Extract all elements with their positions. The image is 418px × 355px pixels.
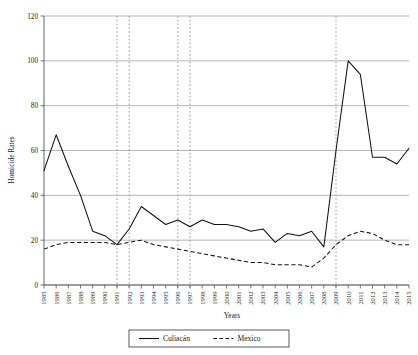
x-tick-label-1988: 1988: [77, 291, 84, 305]
data-series-group: [44, 61, 409, 267]
y-axis-tick-labels-group: 020406080100120: [27, 13, 38, 290]
x-tick-label-1987: 1987: [65, 291, 72, 305]
x-tick-label-2002: 2002: [247, 292, 254, 305]
x-tick-label-1992: 1992: [126, 292, 133, 305]
y-tick-label-60: 60: [31, 147, 39, 155]
x-tick-label-2014: 2014: [393, 291, 400, 305]
x-tick-label-1989: 1989: [89, 291, 96, 305]
x-tick-label-1998: 1998: [199, 291, 206, 305]
x-tick-label-1996: 1996: [174, 291, 181, 305]
x-tick-label-1999: 1999: [211, 291, 218, 305]
x-tick-label-2005: 2005: [284, 291, 291, 305]
series-line-mexico: [44, 231, 409, 267]
x-tick-label-2003: 2003: [259, 291, 266, 305]
x-tick-label-1997: 1997: [186, 291, 193, 305]
x-axis-ticks-group: [44, 285, 409, 289]
y-axis-title: Homicide Rates: [7, 136, 16, 184]
x-tick-label-1985: 1985: [40, 291, 47, 305]
x-tick-label-2011: 2011: [357, 292, 364, 305]
x-tick-label-2012: 2012: [369, 292, 376, 305]
chart-canvas: 020406080100120 198519861987198819891990…: [0, 0, 418, 355]
x-axis-tick-labels-group: 1985198619871988198919901991199219931994…: [40, 291, 412, 305]
y-tick-label-120: 120: [27, 13, 38, 21]
x-tick-label-1990: 1990: [101, 291, 108, 305]
y-axis-ticks-group: [41, 16, 45, 285]
chart-legend: CuliacánMexico: [129, 330, 289, 347]
x-tick-label-1993: 1993: [138, 291, 145, 305]
vertical-marker-lines-group: [117, 16, 336, 289]
x-tick-label-2009: 2009: [332, 291, 339, 305]
x-tick-label-1995: 1995: [162, 291, 169, 305]
x-tick-label-2000: 2000: [223, 291, 230, 305]
series-line-culiacan: [44, 61, 409, 247]
homicide-rates-line-chart: 020406080100120 198519861987198819891990…: [0, 0, 418, 355]
x-tick-label-2001: 2001: [235, 292, 242, 305]
y-tick-label-20: 20: [31, 237, 39, 245]
legend-label-culiacan: Culiacán: [163, 334, 190, 343]
x-tick-label-2004: 2004: [272, 291, 279, 305]
chart-figure: 020406080100120 198519861987198819891990…: [0, 0, 418, 355]
x-axis-title: Years: [224, 311, 241, 320]
x-tick-label-1986: 1986: [53, 291, 60, 305]
y-tick-label-80: 80: [31, 102, 39, 110]
x-tick-label-2006: 2006: [296, 291, 303, 305]
x-tick-label-2007: 2007: [308, 291, 315, 305]
y-tick-label-40: 40: [31, 192, 39, 200]
x-tick-label-1994: 1994: [150, 291, 157, 305]
gridlines-group: [44, 16, 409, 285]
y-tick-label-0: 0: [34, 282, 38, 290]
x-tick-label-1991: 1991: [113, 292, 120, 305]
y-tick-label-100: 100: [27, 57, 38, 65]
x-tick-label-2010: 2010: [345, 291, 352, 305]
x-tick-label-2008: 2008: [320, 291, 327, 305]
x-tick-label-2015: 2015: [405, 291, 412, 305]
legend-label-mexico: Mexico: [237, 334, 260, 343]
x-tick-label-2013: 2013: [381, 291, 388, 305]
